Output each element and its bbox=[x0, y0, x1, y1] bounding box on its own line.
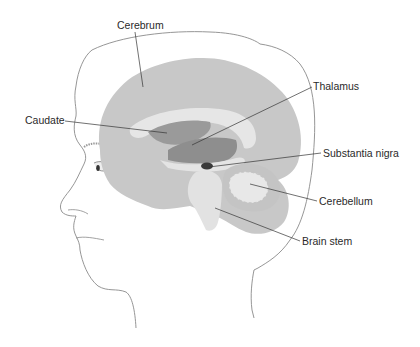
lips bbox=[76, 237, 104, 240]
label-caudate: Caudate bbox=[25, 115, 65, 126]
pupil bbox=[96, 165, 100, 171]
label-cerebrum: Cerebrum bbox=[117, 20, 164, 31]
brain-stem-region bbox=[188, 171, 222, 231]
brain-diagram bbox=[0, 0, 420, 347]
label-thalamus: Thalamus bbox=[313, 81, 359, 92]
label-substantia-nigra: Substantia nigra bbox=[323, 148, 399, 159]
substantia-nigra-region bbox=[201, 163, 213, 170]
nostril bbox=[68, 210, 88, 214]
label-brain-stem: Brain stem bbox=[302, 236, 352, 247]
label-cerebellum: Cerebellum bbox=[319, 196, 373, 207]
